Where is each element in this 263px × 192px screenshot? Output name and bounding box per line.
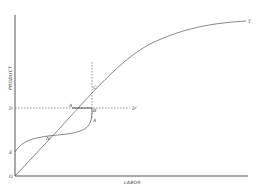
production-diagram: O D D' E N A B C A T LABOR PRODUCT bbox=[0, 0, 263, 192]
total-product-curve bbox=[15, 21, 246, 176]
label-a-low: A bbox=[92, 118, 97, 123]
x-axis-label: LABOR bbox=[124, 180, 141, 185]
s-curve bbox=[15, 108, 92, 152]
label-t: T bbox=[248, 19, 252, 24]
label-a: A bbox=[68, 103, 73, 108]
label-origin: O bbox=[9, 174, 13, 179]
label-c: C bbox=[93, 85, 97, 90]
label-b: B bbox=[92, 108, 97, 113]
label-d-prime: D' bbox=[131, 106, 137, 111]
label-d: D bbox=[8, 106, 13, 111]
label-e: E bbox=[8, 150, 13, 155]
y-axis-label: PRODUCT bbox=[8, 65, 13, 90]
